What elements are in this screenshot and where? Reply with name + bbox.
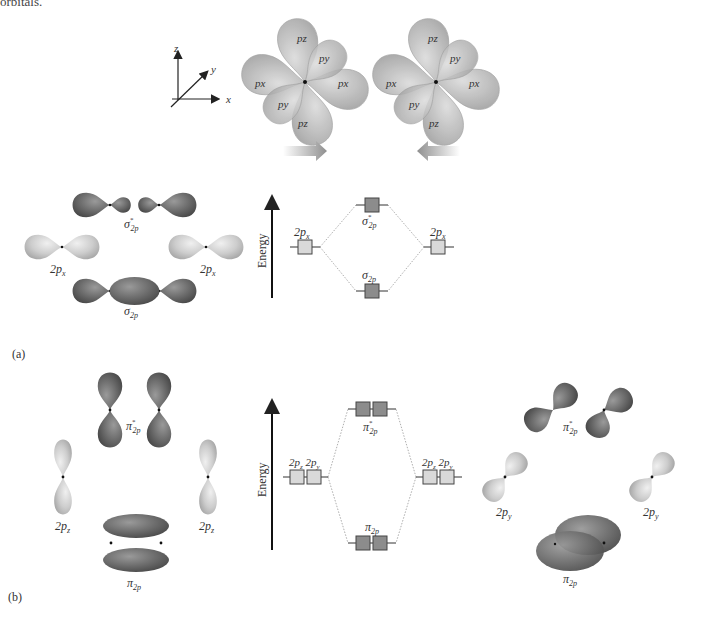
mo-diagram-a: Energy 2px 2px σ*2p σ2p [255,198,454,298]
atom-left-p-orbitals: pz py px px py pz [238,15,371,148]
svg-text:pz: pz [427,32,439,44]
svg-text:2pz: 2pz [55,519,71,535]
2px-left-orbital [25,235,100,259]
svg-text:π2p: π2p [127,576,141,592]
svg-text:px: px [468,77,480,89]
pi-star-2p-orbital-y [520,378,637,441]
svg-text:2py: 2py [643,505,659,521]
svg-text:py: py [408,98,420,110]
level-2px-right [424,240,454,254]
level-2px-left [290,240,320,254]
svg-text:pz: pz [297,117,309,129]
svg-text:2px: 2px [294,225,310,241]
svg-text:σ*2p: σ*2p [362,213,376,230]
sigma-star-2p-orbital [73,193,197,217]
level-sigma [356,284,388,298]
atom-right-p-orbitals: pz py px px py pz [369,15,502,148]
svg-text:σ2p: σ2p [362,268,376,284]
sigma-label: σ2p [124,304,138,320]
pi-2p-orbital-z [103,514,169,572]
svg-text:pz: pz [296,32,308,44]
2px-right-label: 2px [200,262,216,278]
axis-y-label: y [210,63,216,75]
axis-z-label: z [173,42,179,54]
pi-2p-orbital-y [536,515,621,571]
2px-right-orbital [169,235,244,259]
panel-a-label: (a) [12,347,25,361]
2py-right-orbital [625,448,679,506]
sigma-2p-orbital [73,277,197,305]
svg-text:px: px [254,77,266,89]
svg-text:py: py [277,98,289,110]
svg-text:π*2p: π*2p [126,418,141,435]
mo-diagram-b: Energy 2pz 2py 2pz 2py π*2p π2p [255,402,462,550]
level-2pz-2py-right [416,470,462,484]
level-sigma-star [356,198,388,212]
pi-star-2p-orbital-z [98,373,171,448]
2px-left-label: 2px [50,262,66,278]
axis-x-label: x [225,93,231,105]
svg-text:2pz 2py: 2pz 2py [289,456,320,471]
mo-figure: z y x pz py px px py pz pz py px px py p… [0,0,709,621]
svg-text:py: py [449,52,461,64]
svg-text:π*2p: π*2p [563,419,578,436]
2py-left-orbital [478,448,532,506]
svg-text:py: py [318,52,330,64]
level-pi [348,536,396,550]
2pz-left-orbital [54,440,72,515]
coordinate-axes: z y x [171,42,231,107]
svg-text:π*2p: π*2p [363,419,378,436]
svg-text:2px: 2px [430,225,446,241]
level-2pz-2py-left [283,470,328,484]
level-pi-star [348,402,396,416]
svg-text:2py: 2py [496,505,512,521]
svg-text:π2p: π2p [563,572,577,588]
panel-b-label: (b) [8,590,22,604]
svg-text:2pz 2py: 2pz 2py [422,456,453,471]
svg-text:pz: pz [428,117,440,129]
energy-axis-label-b: Energy [255,463,269,497]
energy-axis-label-a: Energy [255,234,269,268]
svg-text:px: px [337,77,349,89]
sigma-star-label: σ*2p [124,216,138,233]
2pz-right-orbital [199,440,217,515]
svg-text:px: px [385,77,397,89]
svg-text:2pz: 2pz [199,519,215,535]
svg-text:π2p: π2p [365,520,379,536]
